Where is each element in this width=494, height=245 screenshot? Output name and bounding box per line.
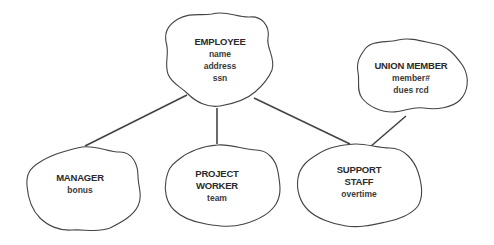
attribute-address: address xyxy=(194,60,245,72)
attribute-name: name xyxy=(194,48,245,60)
node-title: MANAGER xyxy=(56,172,104,184)
edge-employee-support-staff xyxy=(254,98,350,144)
attribute-team: team xyxy=(195,192,238,204)
node-manager: MANAGER bonus xyxy=(56,172,104,196)
diagram-shapes xyxy=(0,0,494,245)
node-title-line-2: STAFF xyxy=(337,176,382,188)
attribute-member-number: member# xyxy=(374,72,447,84)
node-title-line-1: SUPPORT xyxy=(337,164,382,176)
node-title-line-2: WORKER xyxy=(195,180,238,192)
class-diagram: EMPLOYEE name address ssn UNION MEMBER m… xyxy=(0,0,494,245)
attribute-bonus: bonus xyxy=(56,184,104,196)
node-title: UNION MEMBER xyxy=(374,60,447,72)
attribute-dues-rcd: dues rcd xyxy=(374,84,447,96)
node-project-worker: PROJECT WORKER team xyxy=(195,168,238,204)
attribute-ssn: ssn xyxy=(194,72,245,84)
attribute-overtime: overtime xyxy=(337,188,382,200)
edge-union-member-support-staff xyxy=(370,116,406,147)
node-support-staff: SUPPORT STAFF overtime xyxy=(337,164,382,200)
node-employee: EMPLOYEE name address ssn xyxy=(194,36,245,84)
node-title-line-1: PROJECT xyxy=(195,168,238,180)
node-title: EMPLOYEE xyxy=(194,36,245,48)
edge-employee-manager xyxy=(85,95,187,146)
node-union-member: UNION MEMBER member# dues rcd xyxy=(374,60,447,96)
